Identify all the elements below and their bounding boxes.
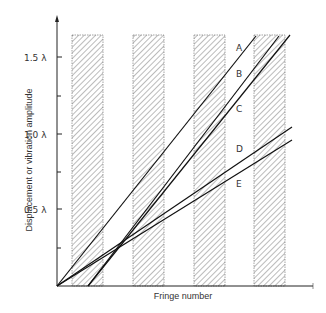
x-axis-label: Fringe number	[0, 291, 326, 301]
label-e: E	[236, 179, 242, 189]
fringe-diagram: 1.5 λ 1.0 λ 0.5 λ A B C D E	[0, 0, 326, 313]
fringe-bands	[72, 35, 285, 286]
label-a: A	[236, 43, 243, 53]
label-c: C	[236, 104, 242, 114]
y-axis-arrow-icon	[55, 15, 59, 22]
label-d: D	[236, 144, 243, 154]
tick-1-5: 1.5 λ	[24, 53, 47, 63]
label-b: B	[236, 69, 242, 79]
y-axis-label: Displacement or vibration amplitude	[24, 88, 34, 231]
